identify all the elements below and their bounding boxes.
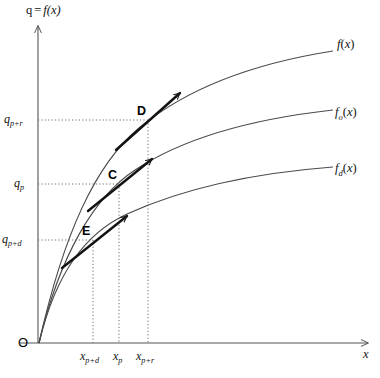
curve-label-f: f(x) [337, 38, 354, 51]
tangent-at-C [88, 159, 152, 211]
y-axis-title-equals: = [32, 3, 43, 17]
guide-lines [38, 120, 148, 343]
x-tick-label-x-p: xp [113, 350, 122, 366]
y-tick-sub-q-p-plus-r: p+r [10, 119, 23, 128]
curve-f-d [39, 167, 333, 343]
curve-label-f-o: fo(x) [335, 106, 357, 121]
curve-label-f-d: fd(x) [335, 162, 357, 177]
point-label-D: D [137, 105, 146, 118]
x-tick-sub-x-p-plus-d: p+d [85, 356, 99, 365]
x-tick-label-x-p-plus-d: xp+d [80, 350, 99, 366]
curve-group [39, 51, 333, 343]
y-tick-sub-q-p: p [20, 183, 24, 192]
x-tick-label-x-p-plus-r: xp+r [136, 350, 154, 366]
y-axis-title: q=f(x) [26, 4, 61, 17]
x-tick-sub-x-p: p [118, 356, 122, 365]
y-tick-label-q-p-plus-d: qp+d [2, 233, 22, 249]
figure-canvas: q=f(x) x O qp+r qp qp+d xp+d xp xp+r f(x… [0, 0, 380, 378]
x-axis-title: x [363, 348, 369, 361]
point-label-E: E [82, 225, 90, 238]
curve-f [39, 51, 333, 343]
origin-label: O [18, 336, 28, 349]
y-tick-sub-q-p-plus-d: p+d [8, 239, 22, 248]
x-tick-sub-x-p-plus-r: p+r [141, 356, 154, 365]
y-tick-label-q-p-plus-r: qp+r [4, 113, 23, 129]
y-axis-title-fx: f(x) [43, 3, 60, 17]
y-tick-label-q-p: qp [14, 177, 24, 193]
diagram-svg [0, 0, 380, 378]
point-label-C: C [108, 169, 117, 182]
tangent-at-E [62, 216, 127, 268]
